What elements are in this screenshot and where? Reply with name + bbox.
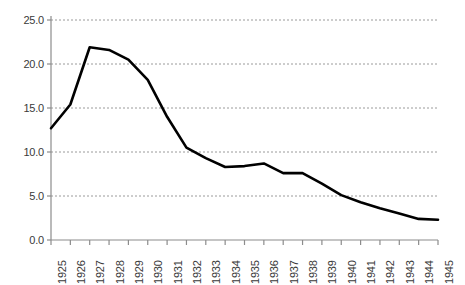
x-axis-label: 1944	[423, 260, 435, 284]
x-axis-label: 1926	[75, 260, 87, 284]
x-axis-label: 1943	[404, 260, 416, 284]
x-axis-label: 1934	[230, 260, 242, 284]
x-axis-label: 1931	[172, 260, 184, 284]
x-axis-label: 1927	[94, 260, 106, 284]
x-axis-label: 1933	[210, 260, 222, 284]
x-axis-label: 1940	[346, 260, 358, 284]
x-axis-label: 1928	[114, 260, 126, 284]
x-axis-label: 1925	[56, 260, 68, 284]
x-axis-label: 1936	[268, 260, 280, 284]
x-axis-label: 1939	[326, 260, 338, 284]
x-axis-label: 1932	[191, 260, 203, 284]
x-axis-label: 1929	[133, 260, 145, 284]
x-axis-label: 1930	[152, 260, 164, 284]
x-axis-label: 1938	[307, 260, 319, 284]
x-axis-tick-labels: 1925192619271928192919301931193219331934…	[0, 0, 465, 285]
x-axis-label: 1945	[443, 260, 455, 284]
line-chart: 0.05.010.015.020.025.0 19251926192719281…	[0, 0, 465, 285]
x-axis-label: 1941	[365, 260, 377, 284]
x-axis-label: 1942	[384, 260, 396, 284]
x-axis-label: 1937	[288, 260, 300, 284]
x-axis-label: 1935	[249, 260, 261, 284]
